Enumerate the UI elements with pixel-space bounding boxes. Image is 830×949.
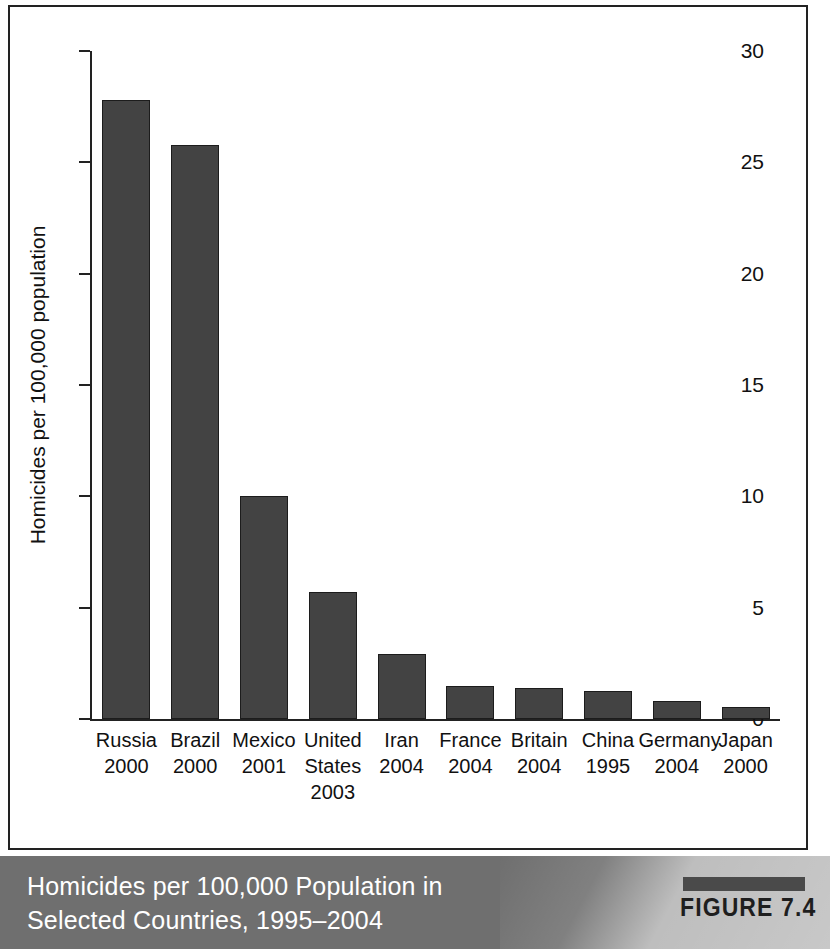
y-tick-mark xyxy=(79,607,90,609)
x-label-country: China xyxy=(570,727,647,753)
y-tick-mark xyxy=(79,273,90,275)
x-label-country: Russia xyxy=(88,727,165,753)
x-label-country: Iran xyxy=(363,727,440,753)
figure-caption: Homicides per 100,000 Population in Sele… xyxy=(27,869,443,937)
x-label-year: 2001 xyxy=(226,753,303,779)
y-tick-mark xyxy=(79,495,90,497)
x-axis-label: Japan2000 xyxy=(707,727,784,779)
caption-line-1: Homicides per 100,000 Population in xyxy=(27,869,443,903)
bar xyxy=(653,701,701,719)
x-label-year: 2004 xyxy=(432,753,509,779)
bar xyxy=(309,592,357,719)
caption-line-2: Selected Countries, 1995–2004 xyxy=(27,903,443,937)
plot-area: Homicides per 100,000 population 0510152… xyxy=(90,51,780,719)
bar xyxy=(722,707,770,719)
x-label-year: 2000 xyxy=(88,753,165,779)
x-axis-label: China1995 xyxy=(570,727,647,779)
x-label-year: 1995 xyxy=(570,753,647,779)
x-label-year: 2004 xyxy=(363,753,440,779)
x-axis-label: UnitedStates2003 xyxy=(294,727,371,805)
x-label-year: 2004 xyxy=(501,753,578,779)
x-label-country: Britain xyxy=(501,727,578,753)
x-label-year: 2000 xyxy=(707,753,784,779)
x-label-country: Germany xyxy=(638,727,715,753)
y-tick-mark xyxy=(79,718,90,720)
bar xyxy=(102,100,150,719)
x-label-year: States xyxy=(294,753,371,779)
x-axis-label: Iran2004 xyxy=(363,727,440,779)
bar xyxy=(515,688,563,719)
bar xyxy=(584,691,632,719)
bars-layer xyxy=(92,51,780,719)
x-label-year: 2000 xyxy=(157,753,234,779)
x-axis-label: Britain2004 xyxy=(501,727,578,779)
bar xyxy=(378,654,426,719)
y-tick-mark xyxy=(79,50,90,52)
bar xyxy=(171,145,219,719)
x-axis-label: France2004 xyxy=(432,727,509,779)
x-axis-label: Brazil2000 xyxy=(157,727,234,779)
x-label-year: 2003 xyxy=(294,779,371,805)
figure-tag-bar xyxy=(683,877,805,891)
y-tick-mark xyxy=(79,161,90,163)
x-label-country: United xyxy=(294,727,371,753)
chart-frame: Homicides per 100,000 population 0510152… xyxy=(8,5,808,850)
bar xyxy=(446,686,494,719)
x-axis-label: Russia2000 xyxy=(88,727,165,779)
x-axis-line xyxy=(90,719,780,721)
x-axis-label: Mexico2001 xyxy=(226,727,303,779)
y-tick-mark xyxy=(79,384,90,386)
x-label-country: Mexico xyxy=(226,727,303,753)
x-label-year: 2004 xyxy=(638,753,715,779)
x-axis-label: Germany2004 xyxy=(638,727,715,779)
figure-7-4: Homicides per 100,000 population 0510152… xyxy=(0,0,830,949)
figure-tag-label: FIGURE 7.4 xyxy=(680,893,816,922)
bar xyxy=(240,496,288,719)
x-label-country: Brazil xyxy=(157,727,234,753)
x-label-country: France xyxy=(432,727,509,753)
y-axis-title: Homicides per 100,000 population xyxy=(26,226,50,545)
x-label-country: Japan xyxy=(707,727,784,753)
